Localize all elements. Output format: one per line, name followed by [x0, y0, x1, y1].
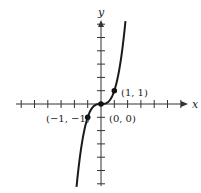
x-axis-label: x: [192, 98, 199, 111]
y-axis-label: y: [97, 6, 105, 19]
point-one: [112, 88, 118, 94]
point-origin: [98, 101, 104, 107]
cubic-function-graph: x y (1, 1) (0, 0) (−1, −1): [0, 0, 201, 193]
point-origin-label: (0, 0): [109, 113, 136, 124]
point-one-label: (1, 1): [121, 87, 148, 98]
y-axis-arrow-icon: [98, 20, 104, 27]
x-axis-arrow-icon: [181, 101, 188, 107]
point-neg-one-label: (−1, −1): [46, 113, 90, 124]
